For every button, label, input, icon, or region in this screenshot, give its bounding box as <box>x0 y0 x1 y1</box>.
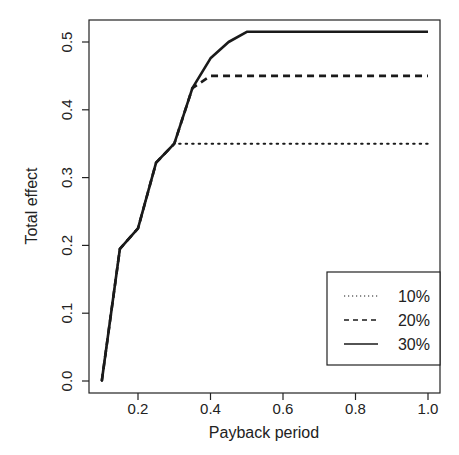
x-tick-label: 0.6 <box>273 400 294 417</box>
y-tick-label: 0.3 <box>58 167 75 188</box>
x-tick-label: 0.8 <box>345 400 366 417</box>
y-tick-label: 0.5 <box>58 32 75 53</box>
y-tick-label: 0.0 <box>58 371 75 392</box>
y-tick-label: 0.4 <box>58 99 75 120</box>
legend-label: 30% <box>398 336 430 353</box>
x-tick-label: 1.0 <box>418 400 439 417</box>
x-tick-label: 0.2 <box>128 400 149 417</box>
line-chart: 0.20.40.60.81.0 0.00.10.20.30.40.5 Payba… <box>0 0 459 455</box>
legend-label: 10% <box>398 288 430 305</box>
y-tick-label: 0.2 <box>58 235 75 256</box>
y-axis: 0.00.10.20.30.40.5 <box>58 32 89 392</box>
x-axis: 0.20.40.60.81.0 <box>128 393 439 417</box>
y-tick-label: 0.1 <box>58 303 75 324</box>
legend: 10%20%30% <box>327 272 440 365</box>
x-tick-label: 0.4 <box>200 400 221 417</box>
y-axis-label: Total effect <box>23 167 40 245</box>
x-axis-label: Payback period <box>209 424 319 441</box>
legend-label: 20% <box>398 312 430 329</box>
